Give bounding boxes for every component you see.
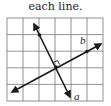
coordinate-grid-diagram: a b: [0, 0, 111, 106]
label-a: a: [74, 90, 80, 102]
point-on-a: [38, 33, 42, 37]
grid: [7, 18, 103, 101]
intersection-point: [54, 65, 58, 69]
point-on-b: [85, 50, 89, 54]
label-b: b: [80, 34, 86, 46]
